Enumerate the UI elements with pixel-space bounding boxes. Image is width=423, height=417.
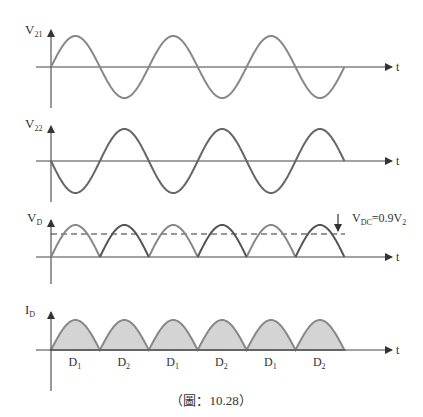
v22-t-label: t [396, 154, 400, 168]
v21-t-label: t [396, 60, 400, 74]
vd-t-label: t [396, 250, 400, 264]
svg-text:ID: ID [25, 302, 35, 319]
svg-text:V22: V22 [25, 116, 42, 133]
id-rectified-filled [51, 320, 344, 350]
segment-label-d2: D2 [215, 355, 228, 371]
segment-label-d2: D2 [313, 355, 326, 371]
svg-text:V21: V21 [25, 22, 42, 39]
segment-label-d1: D1 [166, 355, 179, 371]
segment-label-d1: D1 [264, 355, 277, 371]
panel-v22: V22 t [25, 116, 400, 202]
vd-rectified-wave [51, 225, 296, 257]
segment-label-d1: D1 [69, 355, 82, 371]
segment-label-d2: D2 [117, 355, 130, 371]
figure-caption: （圖：10.28） [170, 393, 251, 408]
id-t-label: t [396, 343, 400, 357]
vdc-annotation: VDC=0.9V2 [352, 211, 406, 227]
panel-vd: VD VDC=0.9V2 t [27, 210, 406, 284]
rectifier-waveform-diagram: V21 t V22 t VD VDC=0.9V2 t ID t D1D2D1D2… [0, 0, 423, 417]
svg-text:VD: VD [27, 210, 42, 227]
panel-v21: V21 t [25, 22, 400, 108]
panel-id: ID t D1D2D1D2D1D2 [25, 302, 400, 391]
